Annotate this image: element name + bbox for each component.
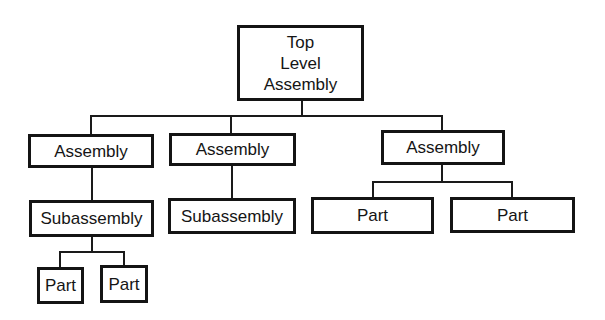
assembly-node-2-label: Assembly — [196, 140, 270, 159]
part-node-subassembly1-2: Part — [100, 265, 148, 303]
subassembly-node-1: Subassembly — [29, 200, 154, 237]
connector-subassembly1-down — [91, 235, 93, 252]
top-level-label-line-2: Level — [280, 53, 321, 74]
assembly-node-3-label: Assembly — [406, 138, 480, 157]
part-node-assembly3-2-label: Part — [497, 206, 528, 225]
assembly-node-1-label: Assembly — [54, 142, 128, 161]
part-node-subassembly1-2-label: Part — [108, 275, 139, 294]
top-level-label-line-1: Top — [287, 32, 314, 53]
part-node-subassembly1-1-label: Part — [45, 276, 76, 295]
connector-to-assembly-1 — [90, 115, 92, 135]
part-node-assembly3-1-label: Part — [357, 206, 388, 225]
connector-level1-bus — [90, 115, 443, 117]
bill-of-materials-tree: Top Level Assembly Assembly Assembly Ass… — [0, 0, 605, 320]
subassembly-node-1-label: Subassembly — [40, 209, 142, 228]
connector-to-assembly-3 — [441, 115, 443, 131]
top-level-label-line-3: Assembly — [264, 74, 338, 95]
connector-assembly3-bus — [372, 181, 513, 183]
assembly-node-2: Assembly — [169, 133, 296, 166]
connector-subassembly1-bus — [59, 251, 125, 253]
subassembly-node-2-label: Subassembly — [181, 207, 283, 226]
connector-assembly2-to-subassembly2 — [231, 164, 233, 199]
part-node-assembly3-2: Part — [450, 197, 575, 233]
assembly-node-3: Assembly — [381, 130, 505, 165]
part-node-subassembly1-1: Part — [37, 267, 84, 304]
subassembly-node-2: Subassembly — [168, 198, 296, 234]
assembly-node-1: Assembly — [28, 134, 154, 168]
connector-assembly3-down — [441, 163, 443, 182]
top-level-assembly-node: Top Level Assembly — [237, 25, 364, 101]
part-node-assembly3-1: Part — [311, 197, 434, 234]
connector-to-assembly-2 — [230, 115, 232, 134]
connector-assembly1-to-subassembly1 — [91, 166, 93, 201]
